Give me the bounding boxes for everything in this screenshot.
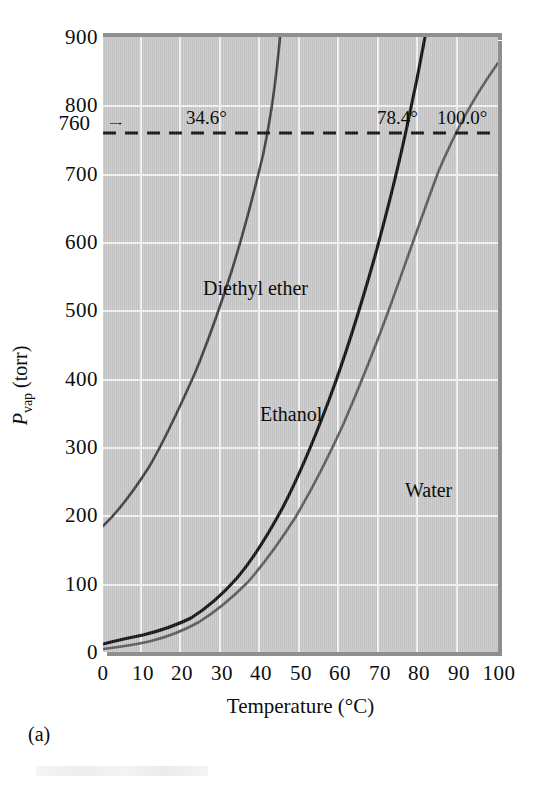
y-tick-500: 500 [38,300,98,321]
annotation-ether-boiling-point: 34.6° [186,108,227,127]
vapor-pressure-figure: 900 800 700 600 500 400 300 200 100 0 76… [0,0,535,785]
x-axis-title: Temperature (°C) [103,694,498,719]
y-tick-300: 300 [38,437,98,458]
y-tick-600: 600 [38,232,98,253]
annotation-ethanol-boiling-point: 78.4° [377,108,418,127]
y-axis-title-subscript: vap [20,393,35,413]
series-label-diethyl-ether: Diethyl ether [203,278,308,298]
y-tick-100: 100 [38,574,98,595]
series-label-ethanol: Ethanol [260,404,322,424]
curve-water [103,63,498,649]
plot-area [103,37,498,652]
y-tick-200: 200 [38,505,98,526]
y-axis-title: Pvap (torr) [9,301,36,471]
y-tick-0: 0 [38,642,98,663]
x-tick-100: 100 [476,662,522,684]
y-tick-400: 400 [38,369,98,390]
panel-caption: (a) [28,723,50,746]
y-axis-title-symbol: P [9,413,31,425]
y-tick-700: 700 [38,164,98,185]
y-axis-title-unit: (torr) [9,346,31,393]
curves-svg [103,37,498,652]
series-label-water: Water [405,480,452,500]
scan-artifact-bar [36,766,208,776]
reference-arrow-icon [92,122,140,125]
y-tick-900: 900 [38,27,98,48]
x-axis-tick-labels: 0 10 20 30 40 50 60 70 80 90 100 [0,662,535,692]
reference-value-760: 760 [28,113,90,134]
annotation-water-boiling-point: 100.0° [437,108,487,127]
